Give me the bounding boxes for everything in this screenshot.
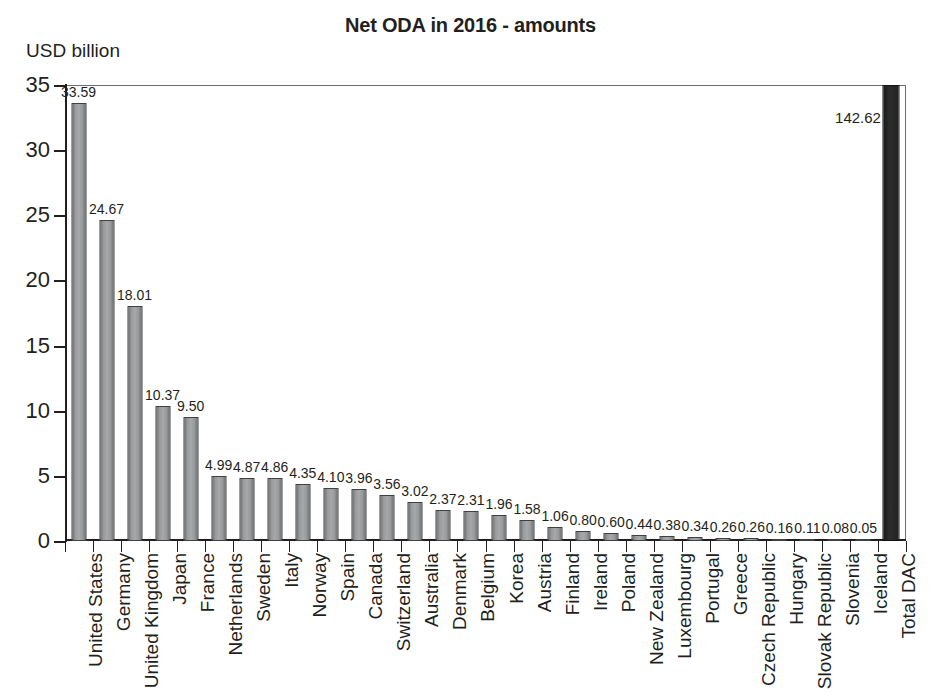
bar-france[interactable] (183, 417, 198, 541)
bar-finland[interactable] (548, 527, 563, 541)
x-tick (822, 541, 823, 552)
bar-value-label: 0.80 (569, 513, 596, 527)
x-tick (654, 541, 655, 552)
x-tick (261, 541, 262, 552)
x-label-luxembourg: Luxembourg (675, 553, 694, 659)
bar-slot: 33.59 (65, 85, 92, 541)
bar-slot: 9.50 (177, 85, 204, 541)
bar-slot: 1.96 (486, 85, 513, 541)
x-label-greece: Greece (731, 553, 750, 615)
x-tick (205, 541, 206, 552)
x-label-portugal: Portugal (703, 553, 722, 624)
bar-spain[interactable] (323, 488, 338, 541)
x-tick (626, 541, 627, 552)
bar-slot: 0.34 (682, 85, 709, 541)
x-label-canada: Canada (366, 553, 385, 620)
x-tick (429, 541, 430, 552)
bar-slot: 3.56 (373, 85, 400, 541)
bar-germany[interactable] (99, 220, 114, 541)
bar-value-label: 3.02 (401, 484, 428, 498)
y-tick-label-25: 25 (10, 202, 50, 228)
bar-value-label: 0.60 (598, 515, 625, 529)
bar-denmark[interactable] (435, 510, 450, 541)
y-tick-label-0: 0 (10, 528, 50, 554)
bar-slot: 142.62 (878, 85, 905, 541)
bar-slot: 0.08 (822, 85, 849, 541)
x-label-spain: Spain (338, 553, 357, 602)
x-label-slovak-republic: Slovak Republic (815, 553, 834, 689)
bar-australia[interactable] (407, 502, 422, 541)
x-tick (738, 541, 739, 552)
y-tick-20 (54, 280, 65, 282)
bar-slot: 0.26 (710, 85, 737, 541)
y-tick-label-15: 15 (10, 333, 50, 359)
x-label-new-zealand: New Zealand (647, 553, 666, 665)
bar-value-label: 4.87 (233, 460, 260, 474)
x-label-united-states: United States (86, 553, 105, 667)
bar-slot: 3.02 (401, 85, 428, 541)
x-label-austria: Austria (535, 553, 554, 612)
x-axis-category-labels: United StatesGermanyUnited KingdomJapanF… (65, 553, 906, 698)
bar-value-label: 1.96 (485, 497, 512, 511)
bar-value-label: 33.59 (61, 85, 96, 99)
x-tick (65, 541, 66, 552)
bar-canada[interactable] (351, 489, 366, 541)
x-tick (401, 541, 402, 552)
bar-united-states[interactable] (71, 103, 86, 541)
x-tick (878, 541, 879, 552)
bar-united-kingdom[interactable] (127, 306, 142, 541)
bar-value-label: 0.08 (822, 521, 849, 535)
bar-slot: 1.58 (514, 85, 541, 541)
bar-value-label: 1.06 (541, 509, 568, 523)
bar-value-label: 4.35 (289, 466, 316, 480)
bar-netherlands[interactable] (211, 476, 226, 541)
bar-slot: 4.87 (233, 85, 260, 541)
bar-value-label: 142.62 (835, 110, 881, 125)
bar-belgium[interactable] (463, 511, 478, 541)
y-tick-5 (54, 476, 65, 478)
x-tick (542, 541, 543, 552)
bar-italy[interactable] (267, 478, 282, 541)
bar-value-label: 10.37 (145, 388, 180, 402)
x-tick (850, 541, 851, 552)
y-tick-label-5: 5 (10, 463, 50, 489)
bar-value-label: 2.37 (429, 492, 456, 506)
y-tick-15 (54, 346, 65, 348)
bar-value-label: 0.11 (794, 521, 820, 535)
x-tick (598, 541, 599, 552)
bar-slot: 0.26 (738, 85, 765, 541)
bar-poland[interactable] (604, 533, 619, 541)
y-tick-30 (54, 150, 65, 152)
bar-value-label: 0.38 (654, 518, 681, 532)
plot-area: 33.5924.6718.0110.379.504.994.874.864.35… (65, 85, 906, 541)
y-tick-label-30: 30 (10, 137, 50, 163)
bar-ireland[interactable] (576, 531, 591, 541)
y-tick-10 (54, 411, 65, 413)
bar-korea[interactable] (492, 515, 507, 541)
bar-slot: 4.86 (261, 85, 288, 541)
bar-slot: 2.31 (457, 85, 484, 541)
x-label-norway: Norway (310, 553, 329, 617)
bar-japan[interactable] (155, 406, 170, 541)
bar-switzerland[interactable] (379, 495, 394, 541)
bar-slot: 0.44 (626, 85, 653, 541)
x-label-italy: Italy (282, 553, 301, 588)
x-label-japan: Japan (170, 553, 189, 605)
bar-value-label: 0.44 (626, 517, 653, 531)
x-tick (93, 541, 94, 552)
bar-value-label: 4.86 (261, 460, 288, 474)
y-tick-label-20: 20 (10, 267, 50, 293)
x-tick (486, 541, 487, 552)
bar-slot: 0.16 (766, 85, 793, 541)
x-tick (317, 541, 318, 552)
x-tick (794, 541, 795, 552)
bar-slot: 0.11 (794, 85, 821, 541)
bar-austria[interactable] (520, 520, 535, 541)
bar-norway[interactable] (295, 484, 310, 541)
x-tick (345, 541, 346, 552)
bar-sweden[interactable] (239, 478, 254, 541)
y-tick-label-35: 35 (10, 72, 50, 98)
bar-value-label: 4.10 (317, 470, 344, 484)
bar-total-dac[interactable] (883, 85, 900, 541)
x-label-hungary: Hungary (787, 553, 806, 625)
